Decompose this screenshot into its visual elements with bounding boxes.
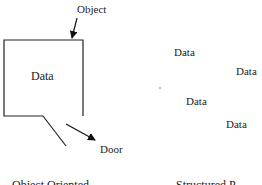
stray-dot	[159, 87, 160, 88]
object-label: Object	[77, 4, 106, 15]
structured-caption: Structured P	[176, 179, 236, 185]
object-oriented-caption: Object Oriented	[12, 179, 89, 185]
object-pointer-arrow	[72, 18, 77, 38]
object-box	[4, 40, 83, 146]
open-door-line	[43, 116, 66, 146]
diagram-lines	[0, 0, 262, 185]
structured-data-3: Data	[186, 96, 207, 107]
structured-data-4: Data	[226, 119, 247, 130]
door-pointer-arrow	[66, 124, 95, 140]
door-label: Door	[100, 144, 123, 155]
structured-data-2: Data	[236, 66, 257, 77]
structured-data-1: Data	[174, 47, 195, 58]
object-data-label: Data	[31, 70, 54, 82]
